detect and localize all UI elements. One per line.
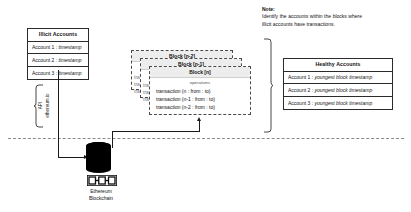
blockchain-chain-icon xyxy=(87,175,117,186)
on-chain-offchain-divider xyxy=(8,138,404,139)
illicit-account-row: Account 1 : timestamp xyxy=(28,42,88,55)
cylinder-bottom xyxy=(86,165,111,173)
healthy-account-row: Account 2 : youngest block timestamp xyxy=(284,84,392,97)
node-to-blocks-connector xyxy=(112,131,200,132)
ghost-transaction-text: tra xyxy=(143,82,149,88)
ghost-transaction-text: tra xyxy=(134,74,140,80)
api-to-node-connector xyxy=(58,157,85,158)
illicit-account-value: timestamp xyxy=(58,57,81,63)
api-label-line-2: ethereum.io xyxy=(45,94,50,118)
node-up-connector xyxy=(112,131,113,148)
healthy-account-value: youngest block timestamp xyxy=(314,87,372,93)
note-title: Note: xyxy=(262,6,362,13)
ghost-transaction-text: tra xyxy=(143,89,149,95)
diagram-canvas: Note: Identify the accounts within the b… xyxy=(0,0,411,212)
illicit-account-label: Account 2 : xyxy=(32,57,58,63)
block-n-transaction-row: transaction (n-1 : from : to) xyxy=(150,95,250,103)
blockchain-label-line-1: Ethereum xyxy=(90,188,112,194)
blockchain-node-label: Ethereum Blockchain xyxy=(72,188,130,202)
api-down-connector xyxy=(58,72,59,157)
illicit-account-value: timestamp xyxy=(58,70,81,76)
illicit-account-value: timestamp xyxy=(58,44,81,50)
blockchain-label-line-2: Blockchain xyxy=(89,195,113,201)
healthy-account-value: youngest block timestamp xyxy=(314,74,372,80)
api-connector-label: API ethereum.io xyxy=(28,89,62,123)
blocks-inbound-arrowhead xyxy=(197,117,201,121)
note-block: Note: Identify the accounts within the b… xyxy=(262,6,362,28)
illicit-account-row: Account 2 : timestamp xyxy=(28,54,88,67)
healthy-account-row: Account 1 : youngest block timestamp xyxy=(284,72,392,85)
block-n: Block [n] operations transaction (n : fr… xyxy=(149,66,251,115)
ghost-transaction-text: tra xyxy=(134,88,140,94)
block-n-transaction-row: transaction (n-2 : from : to) xyxy=(150,103,250,111)
ghost-transaction-text: tra xyxy=(143,96,149,102)
illicit-account-label: Account 1 : xyxy=(32,44,58,50)
illicit-account-label: Account 3 : xyxy=(32,70,58,76)
healthy-account-value: youngest block timestamp xyxy=(314,100,372,106)
healthy-account-label: Account 1 : xyxy=(288,74,314,80)
cylinder-top-cap xyxy=(86,142,111,150)
block-n-header: Block [n] xyxy=(150,67,250,78)
block-n-operations-label: operations xyxy=(150,78,250,87)
healthy-account-label: Account 3 : xyxy=(288,100,314,106)
healthy-accounts-table: Healthy Accounts Account 1 : youngest bl… xyxy=(283,58,393,110)
healthy-accounts-header: Healthy Accounts xyxy=(284,59,392,72)
ghost-transaction-text: tra xyxy=(134,81,140,87)
note-body: Identify the accounts within the blocks … xyxy=(262,13,362,28)
blocks-to-healthy-brace-icon xyxy=(262,38,274,133)
healthy-account-label: Account 2 : xyxy=(288,87,314,93)
illicit-accounts-header: Illicit Accounts xyxy=(28,29,88,42)
healthy-account-row: Account 3 : youngest block timestamp xyxy=(284,97,392,109)
blocks-inbound-connector xyxy=(199,120,200,132)
ethereum-blockchain-node-icon xyxy=(86,142,111,172)
block-n-transaction-row: transaction (n : from : to) xyxy=(150,87,250,95)
api-label-line-1: API xyxy=(38,102,43,109)
